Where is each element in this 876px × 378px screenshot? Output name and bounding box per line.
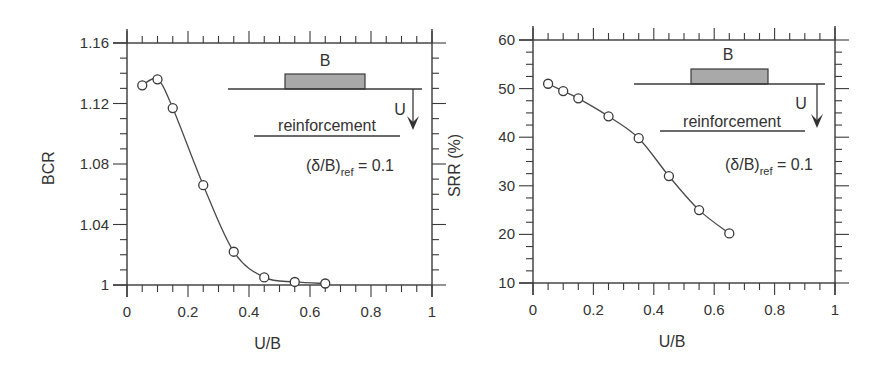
- footing-width-label: B: [723, 46, 734, 63]
- footing-schematic: B U reinforcement (δ/B)ref = 0.1: [634, 46, 825, 177]
- data-point-marker: [153, 75, 162, 84]
- x-tick-label: 0.2: [178, 303, 199, 320]
- depth-label: U: [795, 95, 807, 112]
- data-point-marker: [321, 279, 330, 288]
- srr-chart-panel: 00.20.40.60.81102030405060 U/B SRR (%) B…: [446, 26, 849, 350]
- depth-label: U: [394, 101, 406, 118]
- x-axis-title: U/B: [659, 333, 686, 350]
- x-tick-label: 0.4: [643, 301, 664, 318]
- x-tick-label: 0.2: [583, 301, 604, 318]
- x-tick-label: 0.8: [764, 301, 785, 318]
- data-point-marker: [725, 229, 734, 238]
- x-tick-label: 0.8: [361, 303, 382, 320]
- y-tick-label: 1.04: [80, 216, 109, 233]
- axis-ticks: [113, 31, 446, 297]
- reinforcement-label: reinforcement: [683, 113, 781, 130]
- param-value: = 0.1: [354, 157, 395, 174]
- data-point-marker: [260, 273, 269, 282]
- y-axis-title: BCR: [40, 151, 57, 185]
- x-tick-label: 1: [428, 303, 436, 320]
- param-main: (δ/B): [306, 157, 341, 174]
- x-axis-title: U/B: [254, 335, 281, 352]
- chart-canvas: 00.20.40.60.8111.041.081.121.16 U/B BCR …: [0, 0, 876, 378]
- data-point-marker: [664, 172, 673, 181]
- x-tick-label: 0.6: [300, 303, 321, 320]
- reinforcement-label: reinforcement: [278, 117, 376, 134]
- y-axis-title: SRR (%): [446, 134, 463, 197]
- x-tick-label: 1: [831, 301, 839, 318]
- param-subscript: ref: [760, 165, 774, 177]
- series-markers: [544, 79, 734, 238]
- footing-schematic: B U reinforcement (δ/B)ref = 0.1: [228, 52, 422, 178]
- x-tick-label: 0.4: [239, 303, 260, 320]
- y-tick-label: 1.12: [80, 95, 109, 112]
- data-point-marker: [138, 81, 147, 90]
- data-point-marker: [168, 104, 177, 113]
- data-point-marker: [199, 181, 208, 190]
- series-markers: [138, 75, 330, 288]
- bcr-chart-panel: 00.20.40.60.8111.041.081.121.16 U/B BCR …: [40, 29, 446, 352]
- param-value: = 0.1: [773, 156, 814, 173]
- data-point-marker: [559, 87, 568, 96]
- y-tick-label: 1: [101, 276, 109, 293]
- y-tick-label: 30: [498, 177, 515, 194]
- data-point-marker: [290, 277, 299, 286]
- y-tick-label: 60: [498, 31, 515, 48]
- y-tick-label: 20: [498, 225, 515, 242]
- tick-labels: 00.20.40.60.8111.041.081.121.16: [80, 34, 436, 320]
- y-tick-label: 10: [498, 274, 515, 291]
- y-tick-label: 1.08: [80, 155, 109, 172]
- data-point-marker: [544, 79, 553, 88]
- data-point-marker: [695, 206, 704, 215]
- y-tick-label: 40: [498, 128, 515, 145]
- data-point-marker: [604, 112, 613, 121]
- x-tick-label: 0: [529, 301, 537, 318]
- footing-width-label: B: [320, 52, 331, 69]
- reference-settlement-label: (δ/B)ref = 0.1: [306, 157, 394, 178]
- figure: 00.20.40.60.8111.041.081.121.16 U/B BCR …: [0, 0, 876, 378]
- x-tick-label: 0.6: [704, 301, 725, 318]
- param-subscript: ref: [341, 166, 355, 178]
- data-point-marker: [574, 94, 583, 103]
- data-point-marker: [229, 247, 238, 256]
- footing-rect: [285, 74, 365, 89]
- y-tick-label: 50: [498, 80, 515, 97]
- y-tick-label: 1.16: [80, 34, 109, 51]
- x-tick-label: 0: [123, 303, 131, 320]
- footing-rect: [691, 69, 768, 84]
- reference-settlement-label: (δ/B)ref = 0.1: [725, 156, 813, 177]
- data-point-marker: [634, 134, 643, 143]
- param-main: (δ/B): [725, 156, 760, 173]
